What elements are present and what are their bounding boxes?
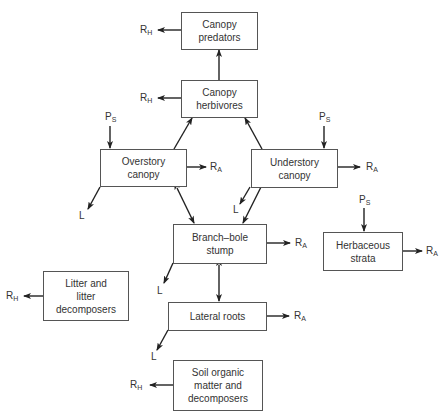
edge-understory-l [240, 187, 250, 204]
node-understory-canopy: Understorycanopy [251, 149, 338, 188]
node-label-line: strata [336, 252, 390, 265]
node-label-line: decomposers [188, 392, 248, 405]
label-rh-litter: RH [6, 291, 18, 304]
node-label-line: Canopy [196, 86, 243, 99]
label-l-branch: L [157, 286, 163, 296]
node-label-line: predators [198, 31, 240, 44]
node-branch-bole-stump: Branch–bolestump [173, 224, 267, 264]
label-ra-lateral: RA [294, 311, 306, 324]
arrow-layer [0, 0, 445, 415]
node-label-line: Soil organic [188, 366, 248, 379]
node-label-line: Lateral roots [190, 310, 246, 323]
edge-branch-l [164, 263, 173, 283]
node-label-line: herbivores [196, 99, 243, 112]
label-l-overstory: L [79, 211, 85, 221]
edge-lateral-l [157, 330, 168, 350]
label-ra-understory: RA [366, 162, 378, 175]
label-rh-soil: RH [130, 380, 142, 393]
edge-understory-herbivores [245, 118, 262, 149]
edge-understory-branch [243, 187, 261, 223]
edge-overstory-branch [177, 188, 194, 223]
node-litter: Litter andlitterdecomposers [43, 271, 129, 321]
node-label-line: Branch–bole [192, 231, 248, 244]
node-label-line: canopy [122, 168, 165, 181]
node-label-line: Overstory [122, 155, 165, 168]
node-label-line: matter and [188, 379, 248, 392]
label-ps-herbaceous: PS [359, 195, 370, 208]
label-ps-overstory: PS [105, 112, 116, 125]
label-l-lateral: L [151, 352, 157, 362]
label-rh-predators: RH [140, 25, 152, 38]
label-l-understory: L [233, 205, 239, 215]
node-label-line: canopy [270, 169, 319, 182]
label-ra-branch: RA [295, 238, 307, 251]
node-herbaceous-strata: Herbaceousstrata [323, 232, 403, 271]
node-label-line: Herbaceous [336, 239, 390, 252]
node-canopy-predators: Canopypredators [181, 12, 258, 50]
node-label-line: decomposers [56, 303, 116, 316]
node-overstory-canopy: Overstorycanopy [100, 149, 187, 187]
node-label-line: stump [192, 244, 248, 257]
node-label-line: litter [56, 290, 116, 303]
edge-overstory-l [88, 187, 100, 209]
label-ra-herbaceous: RA [426, 246, 438, 259]
node-lateral-roots: Lateral roots [168, 302, 267, 331]
label-ps-understory: PS [319, 112, 330, 125]
node-label-line: Litter and [56, 277, 116, 290]
label-rh-herbivores: RH [140, 93, 152, 106]
edge-overstory-herbivores [174, 118, 192, 149]
label-ra-overstory: RA [210, 162, 222, 175]
node-soil-organic-matter: Soil organicmatter anddecomposers [173, 360, 263, 411]
node-label-line: Understory [270, 156, 319, 169]
node-label-line: Canopy [198, 18, 240, 31]
node-canopy-herbivores: Canopyherbivores [181, 80, 258, 118]
